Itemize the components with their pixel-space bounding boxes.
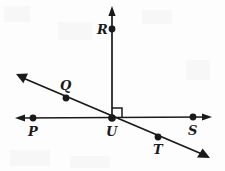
arrowhead-right-horizontal — [202, 113, 212, 120]
arrowhead-top-vertical — [108, 6, 115, 16]
point-dot-s — [190, 114, 197, 121]
point-dot-r — [109, 26, 116, 33]
point-label-q: Q — [60, 79, 71, 92]
point-label-s: S — [188, 124, 197, 137]
point-dot-q — [63, 95, 70, 102]
point-label-r: R — [97, 23, 108, 36]
point-dot-u — [108, 114, 116, 122]
point-label-t: T — [153, 143, 163, 156]
vertical-ray-UR — [108, 6, 115, 118]
geometry-diagram: R Q P U T S — [0, 0, 225, 171]
point-label-u: U — [106, 125, 117, 138]
arrowhead-left-horizontal — [15, 114, 25, 121]
point-dot-t — [155, 134, 162, 141]
point-dot-p — [30, 115, 37, 122]
geometry-canvas — [0, 0, 225, 171]
point-label-p: P — [28, 125, 38, 138]
